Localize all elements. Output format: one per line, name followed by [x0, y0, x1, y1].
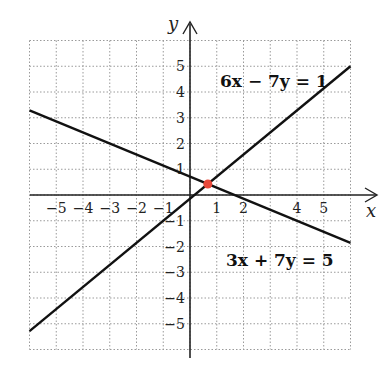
y-tick-label: 4 — [176, 84, 185, 100]
y-tick-label: 2 — [176, 136, 185, 152]
x-tick-label: 1 — [212, 200, 221, 216]
y-tick-label: 3 — [176, 110, 185, 126]
y-tick-label: −5 — [164, 316, 185, 332]
equation-label-1: 6x − 7y = 1 — [220, 71, 328, 91]
y-tick-label: −1 — [164, 213, 185, 229]
axes: y x — [30, 13, 377, 358]
points — [203, 179, 212, 188]
y-axis-label: y — [167, 13, 179, 34]
x-tick-label: −2 — [126, 200, 147, 216]
y-tick-label: −2 — [164, 239, 185, 255]
y-tick-label: 5 — [176, 58, 185, 74]
x-tick-label: 2 — [239, 200, 248, 216]
y-tick-label: −4 — [164, 290, 185, 306]
x-tick-label: −4 — [73, 200, 94, 216]
equation-label-2: 3x + 7y = 5 — [226, 250, 334, 270]
x-tick-label: 4 — [293, 200, 302, 216]
y-tick-label: −3 — [164, 264, 185, 280]
x-tick-label: −3 — [99, 200, 120, 216]
x-tick-label: 5 — [319, 200, 328, 216]
x-axis-label: x — [366, 200, 376, 221]
intersection-point — [203, 179, 212, 188]
chart-canvas: y x −5−4−3−2−1124554321−1−2−3−4−5 6x − 7… — [0, 0, 391, 371]
x-tick-label: −5 — [46, 200, 67, 216]
